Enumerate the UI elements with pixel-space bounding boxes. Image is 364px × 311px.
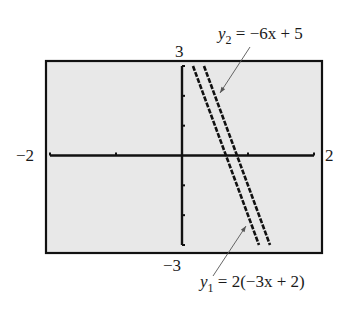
y2-equation-label: y2 = −6x + 5	[218, 25, 303, 42]
y-max-label: 3	[175, 43, 184, 60]
screen-frame	[46, 61, 322, 253]
x-max-label: 2	[325, 147, 334, 164]
x-min-label: −2	[16, 147, 34, 164]
y-min-label: −3	[163, 257, 181, 274]
y1-equation-label: y1 = 2(−3x + 2)	[200, 273, 305, 290]
